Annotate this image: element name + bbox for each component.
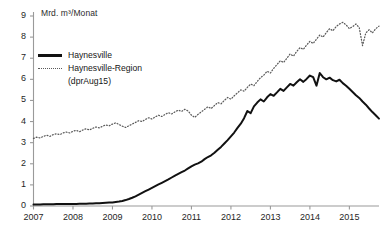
legend-dotted-line-icon (38, 63, 62, 74)
plot-area (0, 0, 384, 233)
legend-label-haynesville-region: Haynesville-Region (68, 63, 142, 74)
legend-item-haynesville-region: Haynesville-Region (38, 63, 142, 74)
series-line-haynesville (34, 73, 379, 205)
legend-item-haynesville: Haynesville (38, 50, 142, 61)
legend-label-haynesville: Haynesville (68, 50, 112, 61)
legend-solid-line-icon (38, 50, 62, 61)
chart-container: Mrd. m³/Monat 0123456789 200720082009201… (0, 0, 384, 233)
chart-legend: Haynesville Haynesville-Region (dprAug15… (38, 50, 142, 87)
legend-label-haynesville-region-sub: (dprAug15) (68, 76, 142, 87)
